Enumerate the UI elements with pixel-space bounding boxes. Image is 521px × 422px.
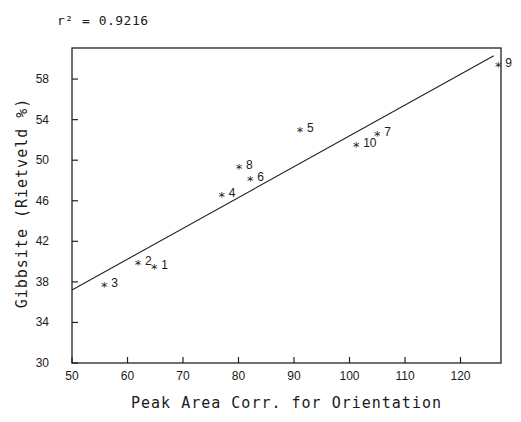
asterisk-marker-icon: *	[135, 257, 142, 272]
x-tick-label: 70	[176, 369, 190, 383]
x-tick-label: 60	[121, 369, 135, 383]
y-tick-label: 58	[36, 72, 50, 86]
point-label: 8	[246, 158, 253, 172]
y-axis-title: Gibbsite (Rietveld %)	[13, 98, 31, 309]
x-tick-label: 100	[339, 369, 359, 383]
point-label: 7	[384, 125, 391, 139]
x-tick-label: 90	[287, 369, 301, 383]
asterisk-marker-icon: *	[236, 161, 243, 176]
scatter-chart: 50607080901001101203034384246505458*1*2*…	[0, 0, 521, 422]
asterisk-marker-icon: *	[495, 59, 502, 74]
point-label: 4	[229, 186, 236, 200]
asterisk-marker-icon: *	[297, 124, 304, 139]
asterisk-marker-icon: *	[219, 189, 226, 204]
y-tick-label: 50	[36, 153, 50, 167]
asterisk-marker-icon: *	[151, 261, 158, 276]
x-tick-label: 80	[232, 369, 246, 383]
asterisk-marker-icon: *	[247, 173, 254, 188]
asterisk-marker-icon: *	[101, 279, 108, 294]
point-label: 10	[363, 136, 377, 150]
y-tick-label: 38	[36, 275, 50, 289]
y-tick-label: 42	[36, 234, 50, 248]
point-label: 1	[161, 258, 168, 272]
x-tick-label: 50	[65, 369, 79, 383]
point-label: 6	[257, 170, 264, 184]
asterisk-marker-icon: *	[353, 139, 360, 154]
point-label: 5	[307, 121, 314, 135]
x-tick-label: 110	[395, 369, 414, 383]
plot-frame	[72, 48, 501, 363]
y-tick-label: 34	[36, 315, 50, 329]
regression-line	[72, 56, 494, 290]
y-tick-label: 30	[36, 356, 50, 370]
point-label: 3	[111, 276, 118, 290]
x-tick-label: 120	[450, 369, 470, 383]
y-tick-label: 54	[36, 113, 50, 127]
y-tick-label: 46	[36, 194, 50, 208]
x-axis-title: Peak Area Corr. for Orientation	[131, 394, 442, 412]
point-label: 2	[145, 254, 152, 268]
point-label: 9	[505, 56, 512, 70]
